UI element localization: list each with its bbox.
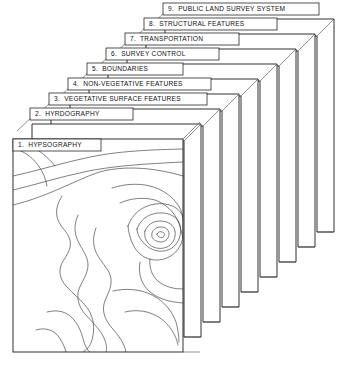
layer-label-text-1: 1. HYPSOGRAPHY: [18, 141, 82, 148]
layer-label-text-5: 5. BOUNDARIES: [92, 65, 149, 72]
layer-label-text-9: 9. PUBLIC LAND SURVEY SYSTEM: [168, 5, 285, 12]
layer-label-box-1[interactable]: 1. HYPSOGRAPHY: [13, 139, 101, 151]
layer-label-text-4: 4. NON-VEGETATIVE FEATURES: [73, 80, 183, 87]
layer-label-text-6: 6. SURVEY CONTROL: [111, 50, 186, 57]
layer-stack-diagram: 9. PUBLIC LAND SURVEY SYSTEM 8. STRUCTUR…: [0, 0, 341, 365]
layer-label-text-3: 3. VEGETATIVE SURFACE FEATURES: [54, 95, 181, 102]
layer-panel-1[interactable]: [13, 122, 200, 352]
layer-label-text-2: 2. HYRDOGRAPHY: [35, 110, 100, 117]
layer-stack-figure: 9. PUBLIC LAND SURVEY SYSTEM 8. STRUCTUR…: [0, 0, 341, 365]
layer-label-text-7: 7. TRANSPORTATION: [130, 35, 203, 42]
layer-label-text-8: 8. STRUCTURAL FEATURES: [149, 20, 245, 27]
